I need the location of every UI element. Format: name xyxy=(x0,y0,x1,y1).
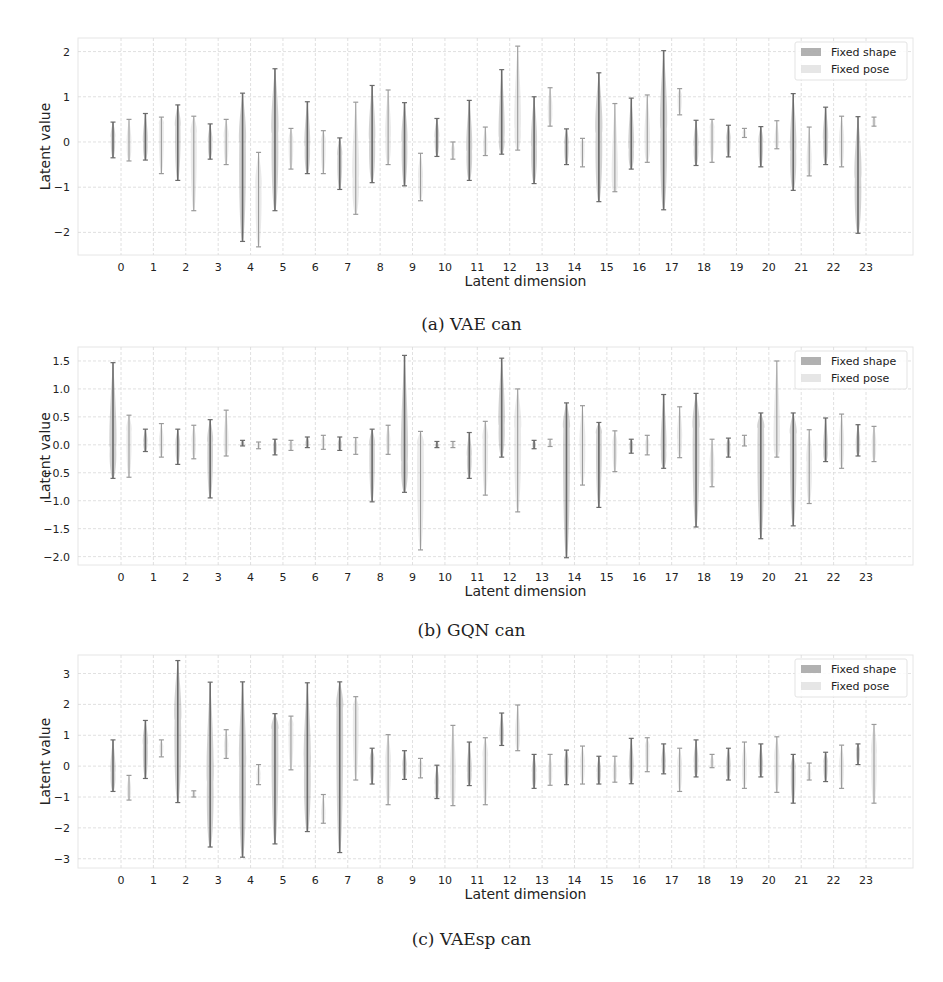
caption-vaesp: (c) VAEsp can xyxy=(0,929,943,949)
x-tick-label: 15 xyxy=(600,874,614,887)
x-tick-label: 2 xyxy=(182,874,189,887)
x-tick-label: 0 xyxy=(118,874,125,887)
legend-swatch xyxy=(801,665,821,673)
y-tick-label: 0 xyxy=(63,760,70,773)
x-tick-label: 17 xyxy=(665,874,679,887)
legend-label: Fixed shape xyxy=(831,663,896,676)
panel-vaesp: −3−2−10123012345678910111213141516171819… xyxy=(0,0,943,982)
x-tick-label: 7 xyxy=(344,874,351,887)
x-tick-label: 1 xyxy=(150,874,157,887)
x-tick-label: 18 xyxy=(697,874,711,887)
legend-label: Fixed pose xyxy=(831,680,889,693)
x-tick-label: 22 xyxy=(827,874,841,887)
y-tick-label: −2 xyxy=(54,822,70,835)
y-tick-label: 3 xyxy=(63,668,70,681)
chart-vaesp: −3−2−10123012345678910111213141516171819… xyxy=(0,0,943,915)
legend: Fixed shapeFixed pose xyxy=(795,659,907,697)
x-tick-label: 4 xyxy=(247,874,254,887)
y-tick-label: 2 xyxy=(63,698,70,711)
y-tick-label: −3 xyxy=(54,853,70,866)
x-tick-label: 5 xyxy=(279,874,286,887)
x-tick-label: 3 xyxy=(215,874,222,887)
y-tick-label: −1 xyxy=(54,791,70,804)
y-tick-label: 1 xyxy=(63,729,70,742)
x-tick-label: 16 xyxy=(632,874,646,887)
plot-area xyxy=(78,655,913,868)
x-tick-label: 9 xyxy=(409,874,416,887)
x-tick-label: 19 xyxy=(729,874,743,887)
x-axis-label: Latent dimension xyxy=(465,886,587,902)
x-tick-label: 8 xyxy=(377,874,384,887)
legend-swatch xyxy=(801,682,821,690)
x-tick-label: 20 xyxy=(762,874,776,887)
x-tick-label: 23 xyxy=(859,874,873,887)
y-axis-label: Latent value xyxy=(37,718,53,806)
x-tick-label: 6 xyxy=(312,874,319,887)
x-tick-label: 10 xyxy=(438,874,452,887)
x-tick-label: 21 xyxy=(794,874,808,887)
